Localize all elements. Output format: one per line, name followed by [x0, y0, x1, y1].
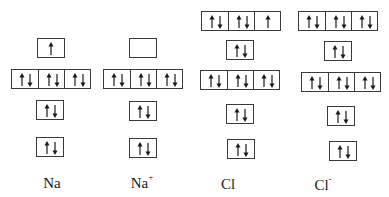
na-plus-2s-orbital [129, 101, 157, 121]
orbital-box [227, 105, 253, 123]
orbital-box [253, 71, 279, 89]
na-plus-2p-orbital [103, 69, 183, 89]
spin-down-arrow-icon [79, 74, 87, 87]
spin-up-arrow-icon [110, 73, 118, 86]
orbital-box [12, 70, 38, 88]
orbital-box [299, 12, 325, 30]
spin-up-arrow-icon [334, 110, 342, 123]
species-label-na: Na [32, 172, 72, 191]
orbital-box [64, 70, 90, 88]
spin-down-arrow-icon [144, 106, 152, 119]
spin-up-arrow-icon [233, 44, 241, 57]
orbital-box [354, 73, 380, 91]
spin-up-arrow-icon [336, 145, 344, 158]
spin-up-arrow-icon [305, 15, 313, 28]
spin-down-arrow-icon [339, 46, 347, 59]
cl-minus-1s-orbital [329, 141, 357, 161]
spin-up-arrow-icon [136, 105, 144, 118]
spin-down-arrow-icon [369, 77, 377, 90]
spin-up-arrow-icon [358, 15, 366, 28]
spin-down-arrow-icon [241, 45, 249, 58]
spin-down-arrow-icon [241, 109, 249, 122]
orbital-box [130, 102, 156, 120]
orbital-box [130, 70, 156, 88]
spin-down-arrow-icon [344, 146, 352, 159]
spin-up-arrow-icon [331, 45, 339, 58]
spin-down-arrow-icon [316, 77, 324, 90]
spin-up-arrow-icon [234, 74, 242, 87]
spin-down-arrow-icon [51, 142, 59, 155]
orbital-box [202, 12, 228, 30]
orbital-box [38, 70, 64, 88]
spin-down-arrow-icon [268, 75, 276, 88]
orbital-box [227, 41, 253, 59]
spin-down-arrow-icon [118, 74, 126, 87]
cl-minus-3s-orbital [324, 41, 352, 61]
cl-minus-2p-orbital [301, 72, 381, 92]
species-label-cl-minus: Cl- [303, 174, 343, 193]
orbital-box [328, 107, 354, 125]
spin-up-arrow-icon [234, 143, 242, 156]
cl-2s-orbital [226, 104, 254, 124]
spin-up-arrow-icon [43, 141, 51, 154]
spin-up-arrow-icon [18, 73, 26, 86]
spin-down-arrow-icon [171, 74, 179, 87]
spin-down-arrow-icon [242, 75, 250, 88]
orbital-box [201, 71, 227, 89]
orbital-box [104, 70, 130, 88]
spin-down-arrow-icon [242, 144, 250, 157]
spin-up-arrow-icon [264, 15, 272, 28]
spin-down-arrow-icon [26, 74, 34, 87]
spin-down-arrow-icon [366, 16, 374, 29]
na-1s-orbital [36, 137, 64, 157]
spin-down-arrow-icon [343, 77, 351, 90]
spin-down-arrow-icon [342, 111, 350, 124]
orbital-box [37, 138, 63, 156]
spin-up-arrow-icon [45, 73, 53, 86]
cl-minus-3p-orbital [298, 11, 378, 31]
label-charge: + [148, 172, 153, 182]
spin-up-arrow-icon [260, 74, 268, 87]
label-base: Na [43, 175, 61, 191]
orbital-box [38, 39, 64, 57]
spin-up-arrow-icon [47, 42, 55, 55]
spin-down-arrow-icon [51, 105, 59, 118]
orbital-box [330, 142, 356, 160]
spin-down-arrow-icon [145, 74, 153, 87]
label-base: Na [131, 175, 149, 191]
spin-down-arrow-icon [144, 143, 152, 156]
spin-up-arrow-icon [308, 76, 316, 89]
spin-up-arrow-icon [137, 73, 145, 86]
orbital-box [328, 73, 354, 91]
orbital-box [228, 140, 254, 158]
na-plus-1s-orbital [129, 138, 157, 158]
cl-3s-orbital [226, 40, 254, 60]
orbital-box [325, 42, 351, 60]
spin-up-arrow-icon [335, 76, 343, 89]
na-2p-orbital [11, 69, 91, 89]
na-2s-orbital [36, 100, 64, 120]
spin-up-arrow-icon [71, 73, 79, 86]
cl-minus-2s-orbital [327, 106, 355, 126]
spin-up-arrow-icon [235, 15, 243, 28]
label-charge: - [329, 174, 332, 184]
orbital-box [302, 73, 328, 91]
spin-down-arrow-icon [53, 74, 61, 87]
species-label-na-plus: Na+ [122, 172, 162, 191]
cl-3p-orbital [201, 11, 281, 31]
spin-down-arrow-icon [340, 16, 348, 29]
spin-up-arrow-icon [332, 15, 340, 28]
spin-down-arrow-icon [243, 16, 251, 29]
orbital-box-empty [130, 39, 156, 57]
cl-1s-orbital [227, 139, 255, 159]
spin-up-arrow-icon [208, 15, 216, 28]
spin-down-arrow-icon [313, 16, 321, 29]
spin-up-arrow-icon [233, 108, 241, 121]
label-base: Cl [221, 176, 235, 192]
orbital-box [325, 12, 351, 30]
orbital-box [130, 139, 156, 157]
na-plus-3s-orbital [129, 38, 157, 58]
spin-up-arrow-icon [361, 76, 369, 89]
spin-up-arrow-icon [163, 73, 171, 86]
label-base: Cl [314, 177, 328, 193]
